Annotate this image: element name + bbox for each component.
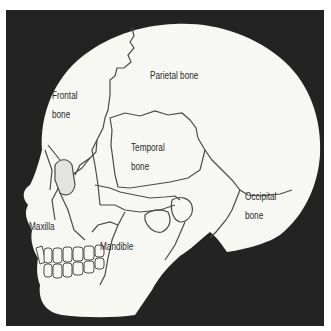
label-line: Frontal <box>52 86 78 105</box>
label-temporal-bone: Temporal bone <box>131 138 165 176</box>
label-line: bone <box>52 105 78 124</box>
label-mandible: Mandible <box>100 237 133 256</box>
label-line: Temporal <box>131 138 165 157</box>
label-frontal-bone: Frontal bone <box>52 86 78 124</box>
label-parietal-bone: Parietal bone <box>150 66 198 85</box>
label-line: Occipital <box>245 187 276 206</box>
skull-illustration <box>0 0 331 331</box>
label-occipital-bone: Occipital bone <box>245 187 276 225</box>
label-line: bone <box>131 157 165 176</box>
label-maxilla: Maxilla <box>29 217 55 236</box>
label-line: bone <box>245 206 276 225</box>
